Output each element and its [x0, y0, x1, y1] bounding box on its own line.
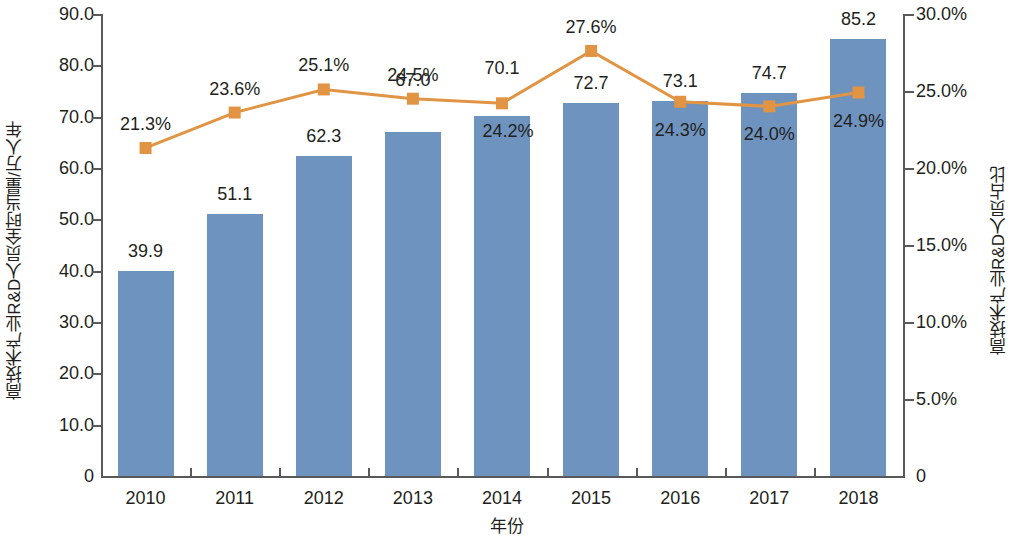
- y-axis-left-title: 高技术产业R&D人员全时当量/万人年: [2, 60, 27, 460]
- y-axis-right-line: [903, 14, 905, 478]
- line-value-label: 27.6%: [547, 17, 636, 38]
- y-axis-left-tick-mark: [92, 425, 101, 427]
- y-axis-left-tick-mark: [92, 117, 101, 119]
- line-value-label: 25.1%: [279, 55, 368, 76]
- y-axis-right-tick-mark: [905, 322, 914, 324]
- bar-value-label: 72.7: [547, 73, 636, 94]
- y-axis-left-tick-label: 0: [30, 467, 94, 485]
- y-axis-right-tick-label: 10.0%: [916, 313, 996, 331]
- bar: [652, 101, 708, 476]
- x-axis-tick-label: 2015: [547, 488, 636, 509]
- y-axis-right-tick-mark: [905, 168, 914, 170]
- y-axis-right-tick-mark: [905, 14, 914, 16]
- line-value-label: 21.3%: [101, 114, 190, 135]
- y-axis-left-tick-label: 70.0: [30, 108, 94, 126]
- bar: [296, 156, 352, 476]
- x-axis-tick-label: 2011: [190, 488, 279, 509]
- x-axis-tick-label: 2018: [814, 488, 903, 509]
- x-axis-tick-label: 2016: [636, 488, 725, 509]
- bar-value-label: 70.1: [457, 58, 546, 79]
- y-axis-right-tick-mark: [905, 91, 914, 93]
- line-marker: [407, 93, 419, 105]
- y-axis-left-tick-label: 80.0: [30, 56, 94, 74]
- x-axis-tick-label: 2012: [279, 488, 368, 509]
- y-axis-left-tick-mark: [92, 373, 101, 375]
- y-axis-left-line: [101, 14, 103, 478]
- y-axis-left-tick-label: 10.0: [30, 416, 94, 434]
- x-axis-tick-label: 2010: [101, 488, 190, 509]
- line-marker: [496, 97, 508, 109]
- y-axis-right-tick-label: 0: [916, 467, 996, 485]
- line-marker: [318, 83, 330, 95]
- y-axis-right-tick-mark: [905, 399, 914, 401]
- bar: [385, 132, 441, 476]
- y-axis-left-tick-label: 60.0: [30, 159, 94, 177]
- bar-value-label: 85.2: [814, 9, 903, 30]
- y-axis-right-tick-label: 25.0%: [916, 82, 996, 100]
- line-value-label: 24.3%: [636, 120, 725, 141]
- y-axis-right-tick-mark: [905, 245, 914, 247]
- y-axis-left-tick-mark: [92, 168, 101, 170]
- x-axis-tick-label: 2014: [457, 488, 546, 509]
- x-axis-line: [101, 476, 905, 478]
- line-value-label: 24.5%: [368, 65, 457, 86]
- x-axis-title: 年份: [0, 512, 1013, 537]
- bar-value-label: 74.7: [725, 63, 814, 84]
- bar: [207, 214, 263, 476]
- line-value-label: 23.6%: [190, 79, 279, 100]
- y-axis-right-tick-label: 30.0%: [916, 5, 996, 23]
- y-axis-right-tick-label: 15.0%: [916, 236, 996, 254]
- y-axis-left-tick-label: 90.0: [30, 5, 94, 23]
- y-axis-right-tick-label: 5.0%: [916, 390, 996, 408]
- bar: [563, 103, 619, 476]
- y-axis-left-tick-mark: [92, 322, 101, 324]
- line-marker: [140, 142, 152, 154]
- bar: [830, 39, 886, 476]
- line-marker: [229, 107, 241, 119]
- line-value-label: 24.2%: [463, 121, 552, 142]
- y-axis-left-title-text: 高技术产业R&D人员全时当量/万人年: [2, 121, 27, 400]
- bar: [741, 93, 797, 476]
- x-axis-tick-label: 2017: [725, 488, 814, 509]
- y-axis-left-tick-mark: [92, 219, 101, 221]
- line-value-label: 24.0%: [725, 124, 814, 145]
- y-axis-left-tick-label: 40.0: [30, 262, 94, 280]
- chart-container: 高技术产业R&D人员全时当量/万人年 高技术产业R&D人员占比 年份 010.0…: [0, 0, 1013, 541]
- line-marker: [585, 45, 597, 57]
- line-value-label: 24.9%: [814, 111, 903, 132]
- bar-value-label: 39.9: [101, 241, 190, 262]
- y-axis-left-tick-label: 50.0: [30, 210, 94, 228]
- bar-value-label: 62.3: [279, 126, 368, 147]
- bar: [118, 271, 174, 476]
- bar: [474, 116, 530, 476]
- x-axis-tick-label: 2013: [368, 488, 457, 509]
- y-axis-left-tick-label: 20.0: [30, 364, 94, 382]
- y-axis-left-tick-mark: [92, 271, 101, 273]
- y-axis-left-tick-label: 30.0: [30, 313, 94, 331]
- bar-value-label: 73.1: [636, 71, 725, 92]
- bar-value-label: 51.1: [190, 184, 279, 205]
- y-axis-left-tick-mark: [92, 14, 101, 16]
- y-axis-left-tick-mark: [92, 65, 101, 67]
- y-axis-right-tick-label: 20.0%: [916, 159, 996, 177]
